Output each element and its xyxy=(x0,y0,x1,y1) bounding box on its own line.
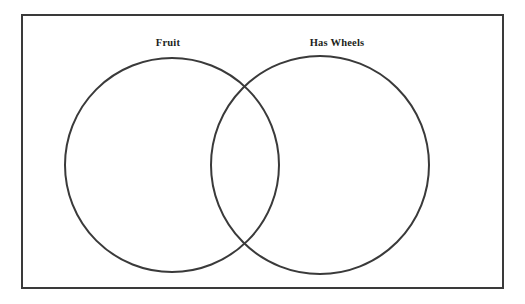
set-label-right: Has Wheels xyxy=(310,37,365,48)
universal-set-box xyxy=(22,15,503,288)
venn-diagram-canvas: Fruit Has Wheels xyxy=(0,0,525,304)
set-label-left: Fruit xyxy=(156,37,181,48)
venn-diagram-page: Fruit Has Wheels xyxy=(0,0,525,304)
